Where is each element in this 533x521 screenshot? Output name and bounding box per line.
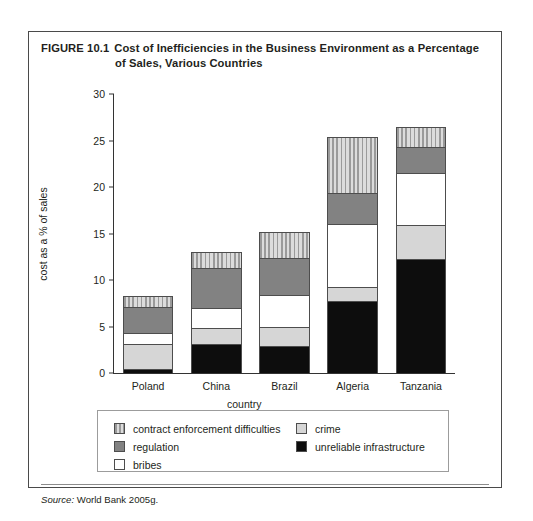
bar-segment-contract-enforcement-difficulties[interactable]	[397, 128, 445, 148]
bar-stack-brazil[interactable]	[259, 232, 309, 373]
x-tick-label-poland: Poland	[132, 380, 165, 392]
plot-area: 051015202530 PolandChinaBrazilAlgeriaTan…	[113, 94, 455, 374]
y-tick-label-5: 5	[68, 321, 114, 333]
bar-slot-brazil: Brazil	[250, 94, 318, 373]
bar-segment-contract-enforcement-difficulties[interactable]	[124, 297, 172, 308]
y-axis-label: cost as a % of sales	[37, 187, 49, 280]
chart-plot-wrapper: cost as a % of sales country 05101520253…	[29, 86, 503, 416]
source-note: Source: World Bank 2005g.	[41, 494, 158, 505]
bar-segment-unreliable-infrastructure[interactable]	[397, 260, 445, 373]
figure-title-block: FIGURE 10.1Cost of Inefficiencies in the…	[41, 41, 491, 70]
bar-segment-contract-enforcement-difficulties[interactable]	[260, 233, 308, 259]
legend-swatch-icon	[114, 441, 125, 452]
legend-label: bribes	[133, 459, 162, 471]
bar-segment-contract-enforcement-difficulties[interactable]	[328, 138, 376, 194]
legend-item-regulation[interactable]: regulation	[114, 438, 280, 455]
bar-segment-crime[interactable]	[192, 329, 240, 346]
bar-segment-bribes[interactable]	[328, 225, 376, 288]
x-tick-label-algeria: Algeria	[336, 380, 369, 392]
legend-label: crime	[315, 423, 341, 435]
figure-number: FIGURE 10.1	[41, 42, 109, 54]
y-tick-label-25: 25	[68, 135, 114, 147]
legend-column-right: crimeunreliable infrastructure	[296, 420, 425, 456]
bar-slot-china: China	[182, 94, 250, 373]
bar-segment-regulation[interactable]	[328, 194, 376, 225]
bar-segment-regulation[interactable]	[397, 148, 445, 174]
source-divider	[41, 484, 489, 485]
bar-segment-regulation[interactable]	[124, 308, 172, 335]
bar-slot-tanzania: Tanzania	[387, 94, 455, 373]
legend-label: unreliable infrastructure	[315, 441, 425, 453]
bar-stack-china[interactable]	[191, 252, 241, 373]
y-tick-label-30: 30	[68, 88, 114, 100]
x-axis-label: country	[227, 398, 261, 410]
bar-segment-bribes[interactable]	[124, 334, 172, 344]
bar-segment-crime[interactable]	[124, 345, 172, 371]
bar-stack-algeria[interactable]	[327, 137, 377, 373]
bar-segment-crime[interactable]	[260, 328, 308, 347]
legend-swatch-icon	[296, 423, 307, 434]
legend-item-bribes[interactable]: bribes	[114, 456, 280, 473]
chart-legend: contract enforcement difficultiesregulat…	[97, 410, 449, 472]
bar-segment-unreliable-infrastructure[interactable]	[328, 302, 376, 373]
bar-segment-bribes[interactable]	[260, 296, 308, 327]
bar-stack-poland[interactable]	[123, 296, 173, 373]
x-tick-label-tanzania: Tanzania	[400, 380, 442, 392]
legend-item-unreliable-infrastructure[interactable]: unreliable infrastructure	[296, 438, 425, 455]
bar-stack-tanzania[interactable]	[396, 127, 446, 373]
bar-segment-unreliable-infrastructure[interactable]	[192, 345, 240, 373]
legend-item-crime[interactable]: crime	[296, 420, 425, 437]
bar-segment-bribes[interactable]	[397, 174, 445, 226]
page-title: Cost of Inefficiencies in the Business E…	[114, 42, 479, 69]
bar-segment-unreliable-infrastructure[interactable]	[260, 347, 308, 373]
x-tick-label-brazil: Brazil	[271, 380, 297, 392]
y-tick-label-0: 0	[68, 367, 114, 379]
legend-column-left: contract enforcement difficultiesregulat…	[114, 420, 280, 474]
legend-label: contract enforcement difficulties	[133, 423, 280, 435]
bar-slot-poland: Poland	[114, 94, 182, 373]
source-keyword: Source:	[41, 494, 74, 505]
bar-segment-bribes[interactable]	[192, 309, 240, 328]
bar-segment-regulation[interactable]	[260, 259, 308, 297]
y-tick-label-15: 15	[68, 228, 114, 240]
legend-item-contract-enforcement-difficulties[interactable]: contract enforcement difficulties	[114, 420, 280, 437]
legend-label: regulation	[133, 441, 179, 453]
bar-slot-algeria: Algeria	[319, 94, 387, 373]
bar-group: PolandChinaBrazilAlgeriaTanzania	[114, 94, 455, 373]
source-text: World Bank 2005g.	[77, 494, 158, 505]
legend-swatch-icon	[114, 459, 125, 470]
bar-segment-regulation[interactable]	[192, 269, 240, 310]
x-tick-label-china: China	[203, 380, 230, 392]
bar-segment-crime[interactable]	[397, 226, 445, 260]
bar-segment-contract-enforcement-difficulties[interactable]	[192, 253, 240, 269]
figure-frame: FIGURE 10.1Cost of Inefficiencies in the…	[28, 31, 502, 488]
y-tick-label-10: 10	[68, 274, 114, 286]
bar-segment-crime[interactable]	[328, 288, 376, 302]
legend-swatch-icon	[114, 423, 125, 434]
bar-segment-unreliable-infrastructure[interactable]	[124, 370, 172, 373]
y-tick-label-20: 20	[68, 181, 114, 193]
legend-swatch-icon	[296, 441, 307, 452]
